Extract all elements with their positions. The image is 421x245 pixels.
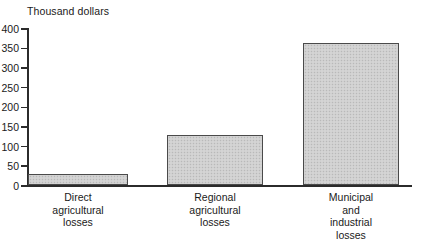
tick-label-350: 350: [0, 43, 19, 54]
tick-mark-250: [21, 87, 27, 89]
tick-label-50: 50: [0, 161, 19, 172]
tick-mark-0: [21, 185, 27, 187]
tick-mark-350: [21, 48, 27, 50]
tick-label-200: 200: [0, 102, 19, 113]
tick-label-0: 0: [0, 180, 19, 191]
tick-label-100: 100: [0, 141, 19, 152]
bar-direct-agricultural-losses: [28, 174, 128, 185]
tick-mark-200: [21, 107, 27, 109]
category-label-direct-agricultural-losses: Direct agricultural losses: [28, 191, 128, 229]
bar-chart: Thousand dollars 400 350 300 250 200 150…: [0, 0, 421, 245]
category-label-municipal-and-industrial-losses: Municipal and industrial losses: [299, 191, 403, 241]
tick-mark-150: [21, 126, 27, 128]
tick-mark-400: [21, 28, 27, 30]
bar-regional-agricultural-losses: [167, 135, 263, 185]
tick-mark-100: [21, 146, 27, 148]
plot-area: 400 350 300 250 200 150 100 50 0 Direct …: [0, 0, 421, 245]
tick-label-300: 300: [0, 63, 19, 74]
tick-label-400: 400: [0, 23, 19, 34]
tick-mark-300: [21, 67, 27, 69]
category-label-regional-agricultural-losses: Regional agricultural losses: [163, 191, 267, 229]
tick-mark-50: [21, 165, 27, 167]
bar-municipal-and-industrial-losses: [303, 43, 399, 185]
tick-label-250: 250: [0, 82, 19, 93]
tick-label-150: 150: [0, 122, 19, 133]
x-axis-line: [27, 185, 412, 187]
y-axis-line: [27, 28, 29, 185]
